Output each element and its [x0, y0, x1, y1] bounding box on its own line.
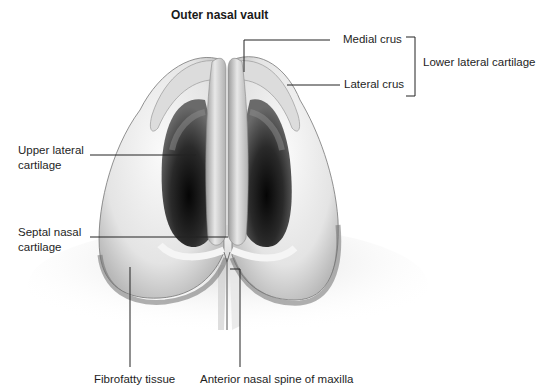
label-medial-crus: Medial crus [343, 32, 402, 47]
label-lateral-crus: Lateral crus [344, 77, 404, 92]
base-shadow [28, 225, 428, 345]
label-lower-lateral-cartilage: Lower lateral cartilage [423, 55, 536, 70]
label-septal-nasal-cartilage: Septal nasal cartilage [18, 225, 81, 255]
label-upper-lateral-cartilage-line2: cartilage [18, 158, 84, 173]
bracket-lower-lateral-cartilage [406, 37, 415, 96]
label-septal-nasal-cartilage-line1: Septal nasal [18, 225, 81, 240]
label-anterior-nasal-spine: Anterior nasal spine of maxilla [200, 372, 353, 387]
label-upper-lateral-cartilage: Upper lateral cartilage [18, 143, 84, 173]
label-upper-lateral-cartilage-line1: Upper lateral [18, 143, 84, 158]
label-septal-nasal-cartilage-line2: cartilage [18, 240, 81, 255]
label-fibrofatty-tissue: Fibrofatty tissue [94, 372, 175, 387]
